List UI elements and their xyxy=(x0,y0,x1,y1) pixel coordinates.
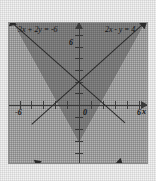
figure-screenshot: 3x + 2y = -6 2x - y = 4 y x 6 0 -6 6 xyxy=(0,0,156,181)
y-tick xyxy=(75,93,83,94)
x-tick xyxy=(43,101,44,109)
y-tick xyxy=(75,47,83,48)
y-tick xyxy=(75,129,83,130)
y-axis-arrow-icon xyxy=(75,22,83,29)
equation-label-left: 3x + 2y = -6 xyxy=(18,26,57,34)
x-tick-label-6: 6 xyxy=(137,109,141,117)
x-tick xyxy=(91,101,92,109)
x-tick xyxy=(127,101,128,109)
equation-label-right: 2x - y = 4 xyxy=(105,26,135,34)
y-tick xyxy=(75,153,83,154)
coordinate-plane: 3x + 2y = -6 2x - y = 4 y x 6 0 -6 6 xyxy=(8,22,148,164)
y-tick xyxy=(75,35,83,36)
origin-label: 0 xyxy=(83,109,87,117)
x-tick xyxy=(67,101,68,109)
y-tick xyxy=(75,58,83,59)
x-tick xyxy=(115,101,116,109)
y-tick xyxy=(75,141,83,142)
x-tick xyxy=(31,101,32,109)
x-tick-label-neg6: -6 xyxy=(15,109,22,117)
y-tick-label-6: 6 xyxy=(69,39,73,47)
x-axis-label: x xyxy=(142,108,146,116)
y-tick xyxy=(75,70,83,71)
y-tick xyxy=(75,117,83,118)
